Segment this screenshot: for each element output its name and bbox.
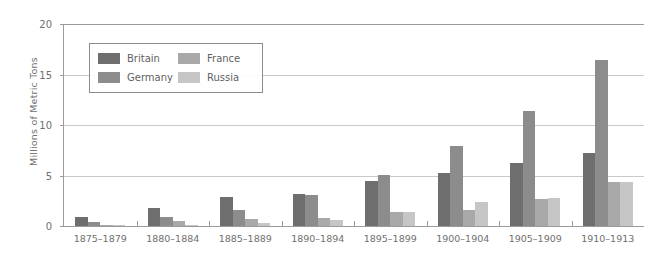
bar-russia-1905-1909 (548, 198, 561, 226)
bar-france-1905-1909 (535, 199, 548, 226)
bar-france-1880-1884 (173, 221, 186, 226)
legend-swatch-icon (178, 53, 200, 64)
bar-germany-1910-1913 (595, 60, 608, 226)
bar-germany-1880-1884 (160, 217, 173, 226)
bar-germany-1890-1894 (305, 195, 318, 226)
y-axis-title: Millions of Metric Tons (28, 32, 39, 192)
y-tick-mark (60, 226, 64, 227)
bar-chart: Millions of Metric Tons 05101520 1875–18… (0, 0, 650, 256)
bar-group (354, 24, 427, 226)
bar-russia-1875-1879 (113, 225, 126, 226)
bar-britain-1905-1909 (510, 163, 523, 226)
legend-swatch-icon (98, 72, 120, 83)
bar-britain-1910-1913 (583, 153, 596, 226)
x-axis-tick (282, 221, 283, 226)
bar-france-1890-1894 (318, 218, 331, 226)
bar-britain-1895-1899 (365, 181, 378, 226)
bar-russia-1900-1904 (475, 202, 488, 226)
bar-group (572, 24, 645, 226)
legend-label: Russia (207, 72, 239, 83)
x-tick-label: 1880–1884 (137, 233, 210, 244)
legend-item-germany[interactable]: Germany (98, 72, 176, 83)
x-tick-label: 1895–1899 (354, 233, 427, 244)
bar-germany-1905-1909 (523, 111, 536, 226)
y-tick-label: 20 (12, 19, 52, 30)
bar-russia-1895-1899 (403, 212, 416, 226)
legend-swatch-icon (178, 72, 200, 83)
bar-germany-1900-1904 (450, 146, 463, 226)
bar-russia-1880-1884 (185, 225, 198, 227)
x-axis-tick (209, 221, 210, 226)
x-tick-label: 1885–1889 (209, 233, 282, 244)
bar-britain-1875-1879 (75, 217, 88, 226)
legend-item-britain[interactable]: Britain (98, 53, 176, 64)
bar-france-1910-1913 (608, 182, 621, 226)
legend-label: France (207, 53, 240, 64)
bar-britain-1890-1894 (293, 194, 306, 226)
x-tick-label: 1900–1904 (427, 233, 500, 244)
bar-france-1885-1889 (245, 219, 258, 226)
bar-russia-1910-1913 (620, 182, 633, 226)
bar-group (499, 24, 572, 226)
x-tick-label: 1905–1909 (499, 233, 572, 244)
bar-russia-1885-1889 (258, 223, 271, 226)
x-axis-tick (499, 221, 500, 226)
bar-britain-1885-1889 (220, 197, 233, 226)
x-axis-tick (137, 221, 138, 226)
bar-britain-1880-1884 (148, 208, 161, 226)
bar-group (427, 24, 500, 226)
x-tick-label: 1875–1879 (64, 233, 137, 244)
bar-group (282, 24, 355, 226)
y-tick-label: 15 (12, 69, 52, 80)
y-tick-label: 5 (12, 170, 52, 181)
legend-swatch-icon (98, 53, 120, 64)
x-tick-label: 1890–1894 (282, 233, 355, 244)
legend-item-france[interactable]: France (178, 53, 256, 64)
x-tick-label: 1910–1913 (572, 233, 645, 244)
bar-germany-1875-1879 (88, 222, 101, 226)
legend-item-russia[interactable]: Russia (178, 72, 256, 83)
bar-france-1895-1899 (390, 212, 403, 226)
bar-britain-1900-1904 (438, 173, 451, 226)
legend-label: Britain (127, 53, 160, 64)
x-axis-tick (427, 221, 428, 226)
bar-germany-1885-1889 (233, 210, 246, 226)
x-axis-tick (572, 221, 573, 226)
legend: BritainFranceGermanyRussia (89, 43, 263, 93)
bar-germany-1895-1899 (378, 175, 391, 227)
x-axis-tick (354, 221, 355, 226)
bar-france-1875-1879 (100, 225, 113, 226)
bar-russia-1890-1894 (330, 220, 343, 226)
bar-france-1900-1904 (463, 210, 476, 226)
y-tick-label: 0 (12, 221, 52, 232)
legend-label: Germany (127, 72, 173, 83)
y-tick-label: 10 (12, 120, 52, 131)
